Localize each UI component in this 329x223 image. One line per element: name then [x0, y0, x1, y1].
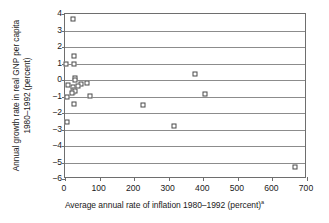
x-tick-label: 0: [62, 184, 67, 193]
y-tick-label: −2: [40, 108, 62, 117]
y-tick-label: −5: [40, 157, 62, 166]
y-tick-label: 0: [40, 75, 62, 84]
y-tick-label: −3: [40, 124, 62, 133]
x-axis-footnote-marker: a: [261, 199, 264, 205]
data-point: [72, 62, 77, 67]
x-tick-label: 700: [299, 184, 313, 193]
x-tick-mark: [203, 177, 204, 181]
x-tick-label: 300: [161, 184, 175, 193]
plot-area: [64, 13, 306, 178]
data-point: [73, 78, 78, 83]
x-axis-title: Average annual rate of inflation 1980–19…: [0, 199, 329, 210]
x-tick-label: 400: [195, 184, 209, 193]
data-point: [64, 95, 69, 100]
y-axis-title-line-1: Annual growth rate in real GNP per capit…: [12, 19, 23, 170]
x-tick-mark: [65, 177, 66, 181]
y-tick-label: −1: [40, 91, 62, 100]
data-point: [64, 61, 69, 66]
data-point: [72, 101, 77, 106]
y-tick-label: 2: [40, 42, 62, 51]
data-point: [87, 93, 92, 98]
y-tick-label: −4: [40, 141, 62, 150]
x-tick-label: 100: [91, 184, 105, 193]
y-tick-label: 4: [40, 9, 62, 18]
y-tick-label: 3: [40, 25, 62, 34]
data-point: [71, 54, 76, 59]
x-tick-label: 500: [230, 184, 244, 193]
x-tick-label: 200: [126, 184, 140, 193]
x-tick-mark: [272, 177, 273, 181]
data-point: [70, 16, 75, 21]
data-point: [140, 102, 145, 107]
x-tick-mark: [100, 177, 101, 181]
data-point: [69, 90, 74, 95]
x-axis-title-text: Average annual rate of inflation 1980–19…: [65, 200, 261, 210]
x-axis-tick-labels: 0100200300400500600700: [0, 184, 329, 196]
y-tick-label: 1: [40, 58, 62, 67]
scatter-chart-figure: Annual growth rate in real GNP per capit…: [0, 0, 329, 223]
y-axis-title-line-2: 1980–1992 (percent): [22, 19, 33, 170]
data-point: [192, 72, 197, 77]
data-point: [65, 120, 70, 125]
data-point: [171, 124, 176, 129]
x-tick-mark: [238, 177, 239, 181]
data-point: [292, 165, 297, 170]
data-point: [85, 81, 90, 86]
x-tick-label: 600: [264, 184, 278, 193]
x-tick-mark: [169, 177, 170, 181]
data-point: [203, 92, 208, 97]
x-tick-mark: [307, 177, 308, 181]
y-tick-label: −6: [40, 174, 62, 183]
data-points: [65, 14, 305, 177]
x-tick-mark: [134, 177, 135, 181]
